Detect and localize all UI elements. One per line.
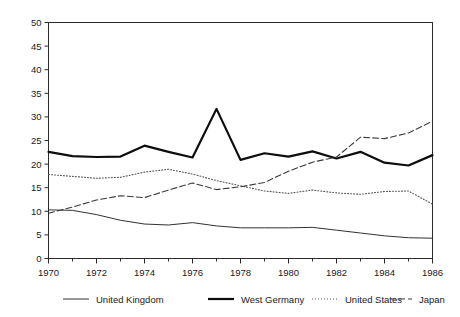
- x-axis-tick-label: 1984: [374, 267, 395, 278]
- legend-label-japan: Japan: [419, 294, 445, 305]
- x-axis-tick-label: 1986: [422, 267, 443, 278]
- legend-label-west-germany: West Germany: [241, 294, 304, 305]
- x-axis-tick-label: 1982: [326, 267, 347, 278]
- line-chart: 0510152025303540455019701972197419761978…: [0, 0, 460, 317]
- x-axis-tick-label: 1974: [134, 267, 155, 278]
- x-axis-tick-label: 1972: [86, 267, 107, 278]
- y-axis-tick-label: 35: [31, 88, 42, 99]
- series-line-united-kingdom: [49, 210, 433, 238]
- y-axis-tick-label: 10: [31, 206, 42, 217]
- y-axis-tick-label: 5: [36, 229, 41, 240]
- y-axis-tick-label: 45: [31, 41, 42, 52]
- x-axis-tick-label: 1970: [38, 267, 59, 278]
- series-line-west-germany: [49, 109, 433, 166]
- y-axis-tick-label: 40: [31, 64, 42, 75]
- y-axis-tick-label: 20: [31, 159, 42, 170]
- x-axis-tick-label: 1978: [230, 267, 251, 278]
- legend-label-united-kingdom: United Kingdom: [96, 294, 164, 305]
- y-axis-tick-label: 30: [31, 111, 42, 122]
- y-axis-tick-label: 15: [31, 182, 42, 193]
- y-axis-tick-label: 25: [31, 135, 42, 146]
- y-axis-tick-label: 50: [31, 17, 42, 28]
- series-line-japan: [49, 121, 433, 213]
- x-axis-tick-label: 1976: [182, 267, 203, 278]
- x-axis-tick-label: 1980: [278, 267, 299, 278]
- chart-canvas: 0510152025303540455019701972197419761978…: [0, 0, 460, 317]
- plot-frame: [49, 23, 433, 259]
- y-axis-tick-label: 0: [36, 253, 41, 264]
